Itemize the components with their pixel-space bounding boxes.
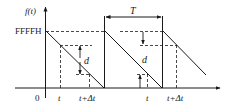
ramp-1: [46, 31, 104, 88]
origin-label: 0: [35, 93, 40, 103]
d-label-2: d: [142, 54, 148, 65]
tick-t-1: t: [58, 93, 61, 103]
d-label-1: d: [84, 55, 90, 66]
y-axis-label: f(t): [25, 6, 36, 16]
ffffh-label: FFFFH: [15, 26, 42, 36]
ramp-3: [163, 31, 206, 75]
sawtooth-diagram: f(t) FFFFH 0 T d d t t+Δt t t+Δt: [0, 0, 235, 107]
period-label: T: [130, 5, 137, 16]
tick-tdt-2: t+Δt: [167, 93, 184, 103]
tick-tdt-1: t+Δt: [79, 93, 96, 103]
tick-t-2: t: [146, 93, 149, 103]
ramp-2: [105, 31, 162, 88]
